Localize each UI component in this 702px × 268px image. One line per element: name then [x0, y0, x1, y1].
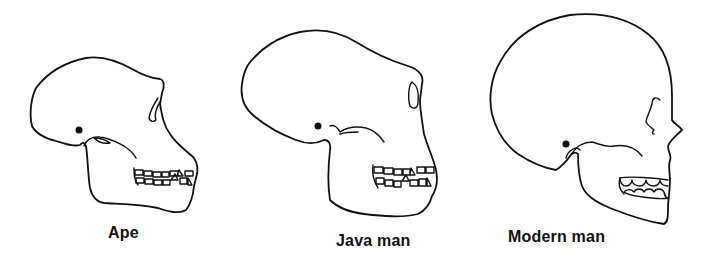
- ape-skull-drawing: [31, 57, 198, 212]
- modern-man-skull-drawing: [490, 14, 682, 224]
- ape-label: Ape: [108, 224, 139, 242]
- skull-comparison-figure: Ape Java man Modern man: [0, 0, 702, 268]
- java-man-label: Java man: [336, 232, 411, 250]
- java-man-skull-drawing: [242, 30, 437, 216]
- modern-man-label: Modern man: [508, 228, 605, 246]
